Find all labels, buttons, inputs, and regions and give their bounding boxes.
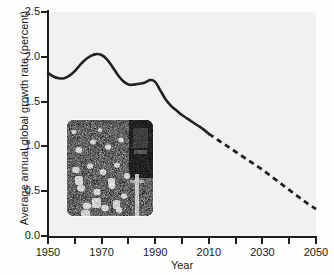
y-tick-mark [41, 11, 47, 13]
x-tick-mark [101, 238, 103, 244]
x-tick-label: 2030 [239, 246, 285, 258]
y-tick-mark [41, 56, 47, 58]
x-tick-mark [208, 238, 210, 244]
x-tick-mark-minor [288, 238, 290, 244]
x-tick-label: 2050 [293, 246, 334, 258]
y-tick-mark [41, 235, 47, 237]
x-tick-mark-minor [235, 238, 237, 244]
x-tick-mark [261, 238, 263, 244]
x-tick-label: 1970 [79, 246, 125, 258]
crowd-photograph-image [67, 120, 153, 216]
figure: 0.00.51.01.52.02.5 195019701990201020302… [0, 0, 334, 275]
x-tick-mark-minor [127, 238, 129, 244]
series-projected-line [209, 134, 316, 209]
x-tick-mark-minor [74, 238, 76, 244]
x-tick-mark [47, 238, 49, 244]
x-tick-label: 2010 [186, 246, 232, 258]
x-axis-title: Year [48, 259, 316, 271]
crowd-photograph-inset [67, 120, 153, 216]
y-tick-mark [41, 101, 47, 103]
y-tick-mark [41, 145, 47, 147]
x-tick-label: 1950 [25, 246, 71, 258]
x-tick-label: 1990 [132, 246, 178, 258]
x-tick-mark [154, 238, 156, 244]
y-tick-mark [41, 190, 47, 192]
x-tick-mark [315, 238, 317, 244]
x-tick-mark-minor [181, 238, 183, 244]
y-axis-title: Average annual global growth rate (perce… [18, 2, 30, 234]
